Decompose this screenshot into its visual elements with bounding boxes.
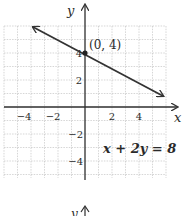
x-tick-2: 2: [109, 111, 115, 122]
y-tick-neg2: −2: [68, 129, 83, 140]
next-graph-y-label: y: [70, 207, 78, 216]
x-tick-4: 4: [136, 111, 142, 122]
y-tick-neg4: −4: [68, 156, 83, 167]
equation-label: x + 2y = 8: [102, 141, 176, 156]
x-tick-neg4: −4: [17, 111, 32, 122]
point-label: (0, 4): [89, 38, 121, 52]
y-axis-label: y: [66, 3, 75, 18]
x-axis-label: x: [174, 110, 182, 125]
graph-x-plus-2y-equals-8: x y −4 −2 2 4 4 2 −2 −4 (0, 4) x + 2y = …: [0, 0, 185, 216]
x-tick-neg2: −2: [46, 111, 61, 122]
y-tick-2: 2: [76, 75, 82, 86]
y-intercept-point: [82, 50, 87, 55]
